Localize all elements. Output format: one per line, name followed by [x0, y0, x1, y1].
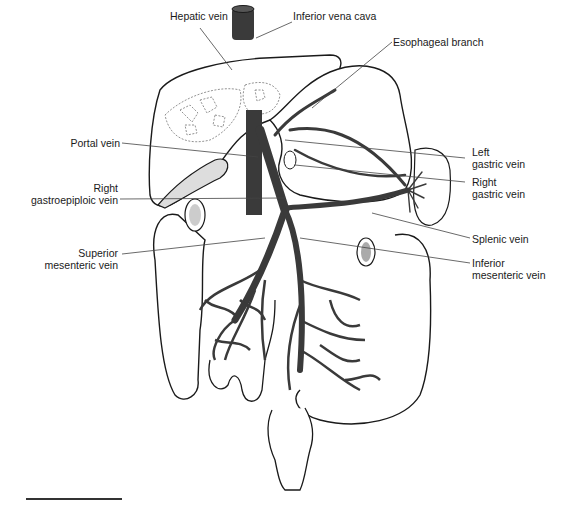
label-portal-vein: Portal vein [30, 137, 120, 149]
label-splenic-vein: Splenic vein [472, 233, 529, 245]
rectum [268, 408, 312, 490]
label-superior-mesenteric-vein: Superior mesenteric vein [0, 247, 118, 271]
label-inferior-mesenteric-vein: Inferior mesenteric vein [472, 257, 546, 281]
rule-line [26, 498, 122, 500]
label-esophageal-branch: Esophageal branch [393, 36, 484, 48]
portal-system-diagram: Hepatic vein Inferior vena cava Esophage… [0, 0, 577, 505]
label-left-gastric-vein: Left gastric vein [472, 146, 525, 170]
label-right-gastroepiploic-vein: Right gastroepiploic vein [0, 182, 118, 206]
label-right-gastric-vein: Right gastric vein [472, 176, 525, 200]
label-hepatic-vein: Hepatic vein [170, 10, 228, 22]
label-inferior-vena-cava: Inferior vena cava [293, 10, 376, 22]
colon [154, 214, 205, 399]
